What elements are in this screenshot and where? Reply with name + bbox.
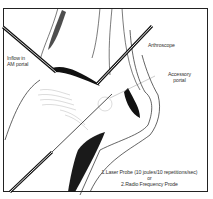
- accessory-leader-line: [110, 76, 155, 98]
- arthroscope-label: Arthroscope: [148, 42, 175, 48]
- probe-tip: [52, 94, 112, 152]
- tibia: [40, 8, 140, 90]
- inflow-label: Inflow in AM portal: [7, 55, 28, 67]
- inflow-label-line2: AM portal: [7, 61, 28, 67]
- probe-label: 1.Laser Probe (10 joules/10 repetitions/…: [92, 169, 207, 187]
- heel-shading: [124, 88, 140, 118]
- accessory-label-line2: portal: [168, 77, 191, 83]
- joint-line: [52, 67, 100, 86]
- accessory-portal-label: Accessory portal: [168, 71, 191, 83]
- probe-label-line2: 2.Radio Frequency Prode: [92, 181, 207, 187]
- ligament-hatching: [38, 89, 112, 130]
